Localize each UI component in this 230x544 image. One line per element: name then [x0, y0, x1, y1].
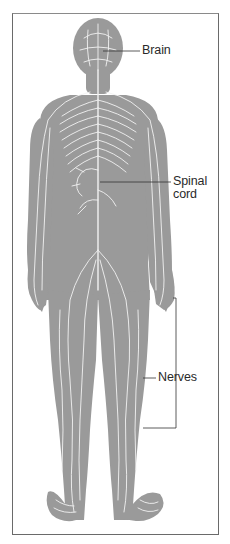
human-body-figure — [0, 0, 230, 544]
label-brain: Brain — [142, 44, 171, 57]
label-spinal-cord-line2: cord — [173, 188, 207, 201]
label-nerves: Nerves — [158, 371, 197, 384]
label-spinal-cord: Spinal cord — [173, 175, 207, 201]
body-silhouette — [27, 18, 175, 521]
